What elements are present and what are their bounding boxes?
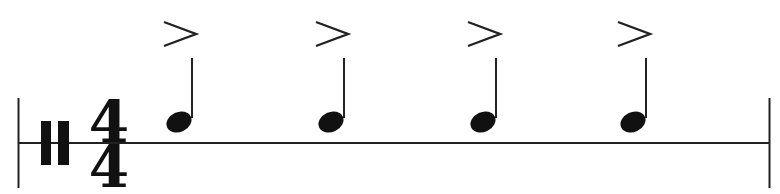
notehead-icon bbox=[617, 107, 649, 136]
note-4 bbox=[617, 22, 650, 137]
accent-icon bbox=[164, 22, 196, 46]
accent-icon bbox=[468, 22, 500, 46]
time-signature-denominator: 4 bbox=[89, 133, 129, 194]
percussion-staff: 4 4 bbox=[0, 0, 780, 194]
note-2 bbox=[315, 22, 348, 137]
accent-icon bbox=[316, 22, 348, 46]
time-signature: 4 4 bbox=[89, 88, 129, 194]
notehead-icon bbox=[163, 107, 195, 136]
notehead-icon bbox=[315, 107, 347, 136]
accent-icon bbox=[618, 22, 650, 46]
notehead-icon bbox=[467, 107, 499, 136]
note-1 bbox=[163, 22, 196, 137]
note-3 bbox=[467, 22, 500, 137]
